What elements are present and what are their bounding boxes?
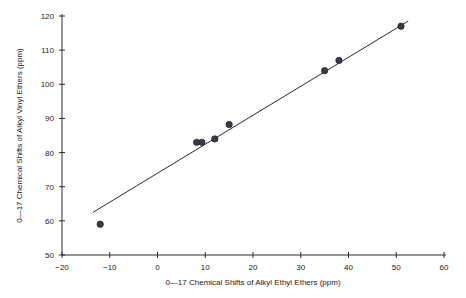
- data-point: [398, 23, 404, 29]
- x-tick-label: 40: [344, 263, 353, 272]
- x-tick-label: 20: [249, 263, 258, 272]
- y-tick-label: 110: [41, 46, 54, 55]
- data-point: [97, 221, 103, 227]
- x-tick-label: −10: [103, 263, 117, 272]
- x-tick-label: 0: [155, 263, 160, 272]
- x-tick-label: 60: [440, 263, 449, 272]
- y-tick-label: 120: [41, 12, 55, 21]
- x-tick-label: −20: [55, 263, 69, 272]
- data-point-group: [97, 23, 404, 227]
- y-axis-title: 0—17 Chemical Shifts of Alkyl Vinyl Ethe…: [15, 48, 24, 223]
- data-point: [199, 139, 205, 145]
- y-tick-label: 90: [45, 114, 54, 123]
- y-tick-label: 70: [45, 183, 54, 192]
- data-point: [321, 67, 327, 73]
- y-axis-ticks: 5060708090100110120: [41, 12, 65, 260]
- x-tick-label: 30: [296, 263, 305, 272]
- y-tick-label: 80: [45, 149, 54, 158]
- y-tick-label: 60: [45, 217, 54, 226]
- x-axis-title: 0—17 Chemical Shifts of Alkyl Ethyl Ethe…: [165, 278, 341, 287]
- data-point: [212, 136, 218, 142]
- plot-canvas: 5060708090100110120 −20−100102030405060 …: [0, 0, 466, 298]
- scatter-plot-figure: 5060708090100110120 −20−100102030405060 …: [0, 0, 466, 298]
- x-tick-label: 10: [201, 263, 210, 272]
- data-point: [226, 121, 232, 127]
- trend-line: [93, 21, 408, 212]
- y-tick-label: 50: [45, 251, 54, 260]
- y-tick-label: 100: [41, 80, 55, 89]
- x-tick-label: 50: [392, 263, 401, 272]
- data-point: [336, 57, 342, 63]
